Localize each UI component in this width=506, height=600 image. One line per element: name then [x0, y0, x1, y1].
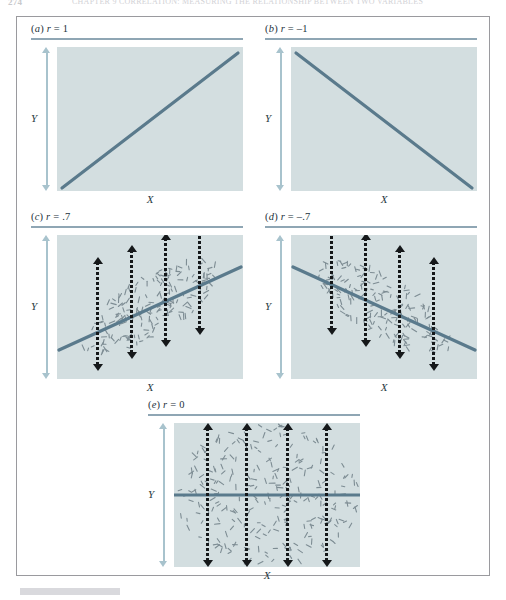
arrow-shaft — [286, 428, 289, 562]
panel-e-plot — [174, 423, 360, 567]
panel-b-line-svg — [291, 47, 477, 191]
page-number: 274 — [8, 0, 22, 7]
measure-arrow — [194, 235, 205, 335]
panel-d-rule — [265, 226, 477, 228]
arrow-down-icon — [93, 364, 103, 371]
panel-c-x-label: X — [57, 381, 243, 393]
panel-c-rule — [31, 226, 243, 228]
y-axis-arrow-down-icon — [276, 185, 284, 191]
arrow-shaft — [432, 262, 435, 366]
arrow-shaft — [198, 235, 201, 330]
panel-c-label: (c) r = .7 — [31, 211, 70, 222]
panel-e-y-label: Y — [148, 488, 154, 500]
arrow-shaft — [364, 238, 367, 342]
y-axis-arrow-down-icon — [42, 185, 50, 191]
panel-d-x-label: X — [291, 381, 477, 393]
panel-a-rule — [31, 38, 243, 40]
y-axis-shaft — [280, 51, 282, 187]
arrow-down-icon — [327, 328, 337, 335]
arrow-shaft — [398, 250, 401, 354]
panel-d-plot — [291, 235, 477, 379]
measure-arrow — [241, 423, 252, 567]
arrow-down-icon — [242, 560, 252, 567]
arrow-down-icon — [283, 560, 293, 567]
arrow-down-icon — [361, 340, 371, 347]
panel-a: (a) r = 1 Y X — [31, 23, 243, 209]
y-axis-shaft — [163, 427, 165, 563]
arrow-shaft — [330, 235, 333, 330]
measure-arrow — [126, 245, 137, 359]
y-axis-arrow-down-icon — [42, 373, 50, 379]
arrow-down-icon — [127, 352, 137, 359]
panel-b-rule — [265, 38, 477, 40]
arrow-down-icon — [395, 352, 405, 359]
panel-a-y-axis — [41, 47, 52, 191]
panel-c-y-axis — [41, 235, 52, 379]
running-header-text: CHAPTER 9 CORRELATION: MEASURING THE REL… — [72, 0, 423, 6]
panel-b-x-label: X — [291, 193, 477, 205]
arrow-down-icon — [161, 340, 171, 347]
panel-e-rule — [148, 414, 360, 416]
arrow-down-icon — [322, 560, 332, 567]
measure-arrow — [428, 257, 439, 371]
panel-c-plot — [57, 235, 243, 379]
measure-arrow — [202, 423, 213, 567]
arrow-down-icon — [195, 328, 205, 335]
panel-a-line-svg — [57, 47, 243, 191]
panel-e: (e) r = 0 Y — [148, 399, 360, 585]
panel-e-y-axis — [158, 423, 169, 567]
measure-arrow — [282, 423, 293, 567]
panel-b-y-label: Y — [265, 112, 271, 124]
panel-a-x-label: X — [57, 193, 243, 205]
panel-b: (b) r = –1 Y X — [265, 23, 477, 209]
y-axis-shaft — [46, 51, 48, 187]
panel-c-scatter-svg — [57, 235, 243, 379]
panel-d-label: (d) r = –.7 — [265, 211, 310, 222]
running-header: 274 CHAPTER 9 CORRELATION: MEASURING THE… — [0, 0, 506, 10]
panel-d: (d) r = –.7 Y — [265, 211, 477, 397]
panel-a-y-label: Y — [31, 112, 37, 124]
measure-arrow — [360, 235, 371, 347]
panel-b-label: (b) r = –1 — [265, 23, 308, 34]
figure-caption-bar — [20, 588, 120, 595]
y-axis-arrow-down-icon — [276, 373, 284, 379]
arrow-shaft — [245, 428, 248, 562]
measure-arrow — [160, 235, 171, 347]
measure-arrow — [326, 235, 337, 335]
panel-e-label: (e) r = 0 — [148, 399, 185, 410]
panel-b-plot — [291, 47, 477, 191]
panel-c: (c) r = .7 Y — [31, 211, 243, 397]
panel-e-x-label: X — [174, 569, 360, 581]
measure-arrow — [394, 245, 405, 359]
measure-arrow — [92, 257, 103, 371]
arrow-shaft — [325, 428, 328, 562]
panel-d-scatter-svg — [291, 235, 477, 379]
panel-a-label: (a) r = 1 — [31, 23, 68, 34]
panel-a-plot — [57, 47, 243, 191]
measure-arrow — [321, 423, 332, 567]
arrow-shaft — [96, 262, 99, 366]
panel-c-y-label: Y — [31, 300, 37, 312]
arrow-shaft — [206, 428, 209, 562]
panel-d-y-axis — [275, 235, 286, 379]
y-axis-shaft — [46, 239, 48, 375]
arrow-shaft — [130, 250, 133, 354]
arrow-down-icon — [429, 364, 439, 371]
y-axis-shaft — [280, 239, 282, 375]
panel-b-y-axis — [275, 47, 286, 191]
y-axis-arrow-down-icon — [159, 561, 167, 567]
figure-frame: (a) r = 1 Y X (b) r = –1 Y X — [16, 16, 490, 576]
panel-d-y-label: Y — [265, 300, 271, 312]
arrow-down-icon — [203, 560, 213, 567]
arrow-shaft — [164, 238, 167, 342]
